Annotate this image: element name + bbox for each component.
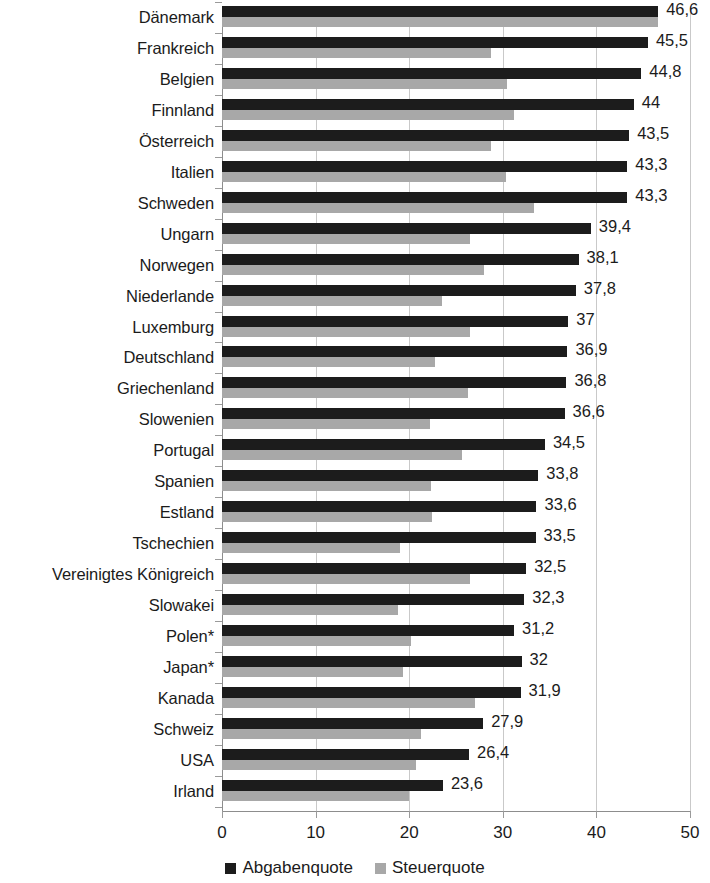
value-label: 33,8 (546, 464, 578, 482)
value-label: 43,3 (635, 155, 667, 173)
category-label: Finnland (0, 100, 214, 120)
y-tick (215, 404, 222, 405)
bar-steuerquote (222, 327, 470, 337)
category-label: Polen* (0, 626, 214, 646)
bar-steuerquote (222, 760, 416, 770)
y-tick (215, 745, 222, 746)
y-tick (215, 126, 222, 127)
bar-abgabenquote (222, 594, 524, 605)
value-label: 27,9 (491, 712, 523, 730)
bar-steuerquote (222, 234, 470, 244)
y-tick (215, 652, 222, 653)
y-tick (215, 621, 222, 622)
x-axis-line (222, 811, 691, 812)
y-tick (215, 281, 222, 282)
bar-abgabenquote (222, 439, 545, 450)
category-label: Schweiz (0, 719, 214, 739)
x-tick-30 (503, 811, 504, 818)
value-label: 33,6 (544, 495, 576, 513)
bar-abgabenquote (222, 377, 566, 388)
chart-legend: AbgabenquoteSteuerquote (0, 855, 710, 881)
category-label: Norwegen (0, 255, 214, 275)
bar-abgabenquote (222, 130, 629, 141)
category-axis-labels: DänemarkFrankreichBelgienFinnlandÖsterre… (0, 0, 214, 815)
value-label: 31,2 (522, 619, 554, 637)
category-label: Luxemburg (0, 317, 214, 337)
bar-steuerquote (222, 636, 411, 646)
bar-abgabenquote (222, 687, 521, 698)
bar-abgabenquote (222, 6, 658, 17)
y-tick (215, 590, 222, 591)
value-label: 37 (576, 310, 594, 328)
category-label: Tschechien (0, 533, 214, 553)
category-label: Vereinigtes Königreich (0, 564, 214, 584)
bar-abgabenquote (222, 37, 648, 48)
x-tick-label-0: 0 (192, 822, 252, 844)
y-tick (215, 807, 222, 808)
bar-steuerquote (222, 110, 514, 120)
legend-item: Steuerquote (375, 858, 485, 878)
category-label: Slowenien (0, 409, 214, 429)
bar-abgabenquote (222, 161, 627, 172)
y-tick (215, 312, 222, 313)
bar-steuerquote (222, 172, 506, 182)
plot-area (222, 6, 690, 811)
bar-steuerquote (222, 79, 507, 89)
y-tick (215, 497, 222, 498)
y-tick (215, 435, 222, 436)
bar-abgabenquote (222, 254, 579, 265)
value-label: 26,4 (477, 743, 509, 761)
x-tick-0 (222, 811, 223, 818)
value-label: 31,9 (529, 681, 561, 699)
category-label: Slowakei (0, 595, 214, 615)
category-label: Österreich (0, 131, 214, 151)
y-tick (215, 342, 222, 343)
category-label: USA (0, 750, 214, 770)
x-axis-tick-labels: 01020304050 (0, 822, 710, 848)
y-tick (215, 33, 222, 34)
x-tick-label-50: 50 (660, 822, 710, 844)
value-label: 43,5 (637, 124, 669, 142)
x-tick-label-40: 40 (566, 822, 626, 844)
value-label: 46,6 (666, 0, 698, 18)
bar-steuerquote (222, 729, 421, 739)
bar-steuerquote (222, 698, 475, 708)
value-label: 43,3 (635, 186, 667, 204)
y-tick (215, 373, 222, 374)
y-tick (215, 219, 222, 220)
bar-steuerquote (222, 296, 442, 306)
value-label: 44,8 (649, 62, 681, 80)
bar-chart: DänemarkFrankreichBelgienFinnlandÖsterre… (0, 0, 710, 883)
y-tick (215, 528, 222, 529)
bar-steuerquote (222, 512, 432, 522)
category-label: Niederlande (0, 286, 214, 306)
category-label: Italien (0, 162, 214, 182)
bar-abgabenquote (222, 408, 565, 419)
value-label: 37,8 (584, 279, 616, 297)
category-label: Frankreich (0, 38, 214, 58)
bar-steuerquote (222, 481, 431, 491)
value-label: 45,5 (656, 31, 688, 49)
value-label: 36,8 (574, 371, 606, 389)
bar-abgabenquote (222, 718, 483, 729)
bar-steuerquote (222, 667, 403, 677)
value-label: 32 (530, 650, 548, 668)
bar-steuerquote (222, 17, 658, 27)
legend-swatch-icon (375, 863, 386, 874)
x-tick-label-30: 30 (473, 822, 533, 844)
y-tick (215, 250, 222, 251)
category-label: Griechenland (0, 378, 214, 398)
value-label: 33,5 (544, 526, 576, 544)
bar-abgabenquote (222, 501, 536, 512)
bar-steuerquote (222, 265, 484, 275)
bar-steuerquote (222, 791, 409, 801)
value-label: 32,3 (532, 588, 564, 606)
x-tick-label-20: 20 (379, 822, 439, 844)
bar-abgabenquote (222, 470, 538, 481)
value-label: 34,5 (553, 433, 585, 451)
value-label: 23,6 (451, 774, 483, 792)
category-label: Belgien (0, 69, 214, 89)
bar-steuerquote (222, 543, 400, 553)
value-label: 36,9 (575, 340, 607, 358)
y-tick (215, 2, 222, 3)
